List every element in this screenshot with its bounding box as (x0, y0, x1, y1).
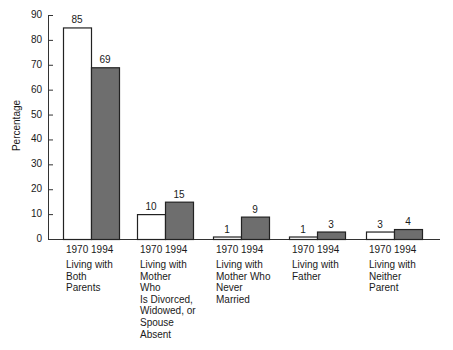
y-tick-label: 10 (20, 208, 42, 219)
value-label: 3 (365, 219, 395, 230)
value-label: 3 (316, 219, 346, 230)
y-axis-label: Percentage (11, 96, 22, 156)
year-labels: 1970 1994 (292, 244, 339, 255)
category-label: Living withNeitherParent (369, 259, 416, 294)
bar-chart: 0102030405060708090Percentage85691970 19… (0, 0, 453, 350)
year-labels: 1970 1994 (369, 244, 416, 255)
value-label: 15 (164, 189, 194, 200)
y-tick-label: 70 (20, 59, 42, 70)
y-tick-label: 80 (20, 34, 42, 45)
value-label: 1 (212, 224, 242, 235)
bar-1970 (138, 215, 166, 240)
category-label: Living withFather (292, 259, 339, 282)
bar-1970 (64, 28, 92, 240)
bar-1970 (290, 237, 318, 239)
value-label: 69 (90, 54, 120, 65)
y-tick-label: 60 (20, 84, 42, 95)
category-label: Living withMotherWhoIs Divorced,Widowed,… (140, 259, 196, 340)
y-tick-label: 40 (20, 133, 42, 144)
y-tick-label: 20 (20, 183, 42, 194)
y-tick-label: 50 (20, 109, 42, 120)
bar-1994 (92, 68, 120, 240)
category-label: Living withBothParents (66, 259, 113, 294)
value-label: 10 (136, 201, 166, 212)
value-label: 9 (240, 204, 270, 215)
bar-1994 (166, 202, 194, 239)
category-label: Living withMother WhoNeverMarried (216, 259, 270, 305)
bar-1970 (367, 232, 395, 239)
y-tick-label: 90 (20, 9, 42, 20)
bar-1994 (318, 232, 346, 239)
bar-1994 (395, 230, 423, 240)
value-label: 85 (62, 14, 92, 25)
y-tick-label: 30 (20, 158, 42, 169)
year-labels: 1970 1994 (216, 244, 263, 255)
bar-1970 (214, 237, 242, 239)
year-labels: 1970 1994 (140, 244, 187, 255)
y-tick-label: 0 (20, 233, 42, 244)
value-label: 1 (288, 224, 318, 235)
year-labels: 1970 1994 (66, 244, 113, 255)
bar-1994 (242, 217, 270, 239)
value-label: 4 (393, 216, 423, 227)
